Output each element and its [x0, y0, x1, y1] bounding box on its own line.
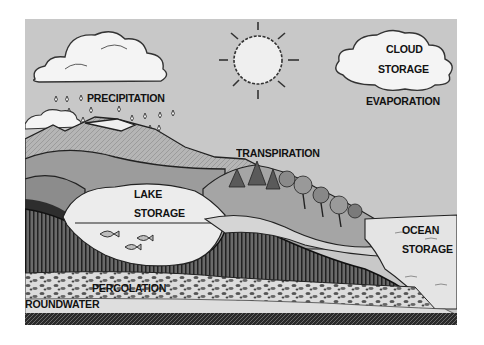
- bedrock: [25, 313, 457, 325]
- groundwater-label: ROUNDWATER: [25, 298, 99, 311]
- precipitation-label: PRECIPITATION: [87, 92, 165, 105]
- water-cycle-diagram: PRECIPITATION CLOUD STORAGE EVAPORATION …: [25, 19, 457, 325]
- ocean-storage-label-line1: OCEAN: [402, 224, 439, 237]
- lake-storage-label-line1: LAKE: [134, 188, 162, 201]
- evaporation-label: EVAPORATION: [366, 95, 440, 108]
- transpiration-label: TRANSPIRATION: [236, 147, 320, 160]
- ocean-storage-label-line2: STORAGE: [402, 243, 453, 256]
- cloud-storage-label-line1: CLOUD: [386, 43, 423, 56]
- cloud-storage-label-line2: STORAGE: [378, 63, 429, 76]
- lake-storage-label-line2: STORAGE: [134, 207, 185, 220]
- percolation-label: PERCOLATION: [92, 282, 166, 295]
